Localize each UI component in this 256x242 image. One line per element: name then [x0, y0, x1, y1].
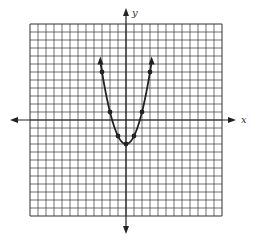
- data-point: [108, 110, 113, 115]
- y-axis-label: y: [131, 7, 138, 18]
- coordinate-plane: x y: [0, 0, 256, 242]
- x-axis-left-arrow-icon: [10, 117, 18, 123]
- y-axis-down-arrow-icon: [123, 226, 129, 234]
- data-point: [124, 142, 129, 147]
- x-axis-label: x: [241, 114, 247, 125]
- data-point: [148, 70, 153, 75]
- data-point: [140, 110, 145, 115]
- y-axis-up-arrow-icon: [123, 8, 129, 16]
- data-point: [132, 134, 137, 139]
- data-point: [116, 134, 121, 139]
- curve-left-arrow-icon: [97, 56, 103, 64]
- curve-right-arrow-icon: [149, 56, 155, 64]
- x-axis-right-arrow-icon: [228, 117, 236, 123]
- data-point: [100, 70, 105, 75]
